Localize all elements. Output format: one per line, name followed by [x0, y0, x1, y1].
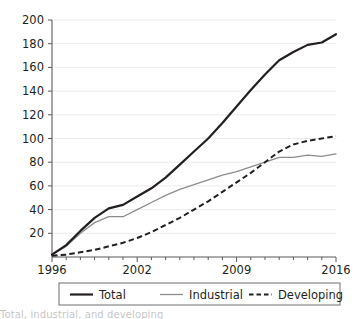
caption-strip: Total, industrial, and developing [0, 309, 358, 319]
x-axis-tick-labels: 1996200220092016 [37, 263, 350, 277]
y-tick-label: 60 [29, 179, 44, 193]
line-chart: 20406080100120140160180200 1996200220092… [0, 0, 358, 319]
y-tick-label: 100 [22, 132, 44, 146]
y-tick-label: 160 [22, 60, 44, 74]
y-tick-label: 180 [22, 37, 44, 51]
chart-legend: Total Industrial Developing [59, 283, 343, 305]
figure-container: 20406080100120140160180200 1996200220092… [0, 0, 358, 319]
legend-label-total: Total [98, 288, 126, 302]
figure-caption: Total, industrial, and developing [0, 309, 358, 319]
legend-label-industrial: Industrial [189, 288, 243, 302]
y-tick-label: 200 [22, 13, 44, 27]
legend-label-developing: Developing [278, 288, 343, 302]
y-tick-label: 120 [22, 108, 44, 122]
x-tick-label: 1996 [37, 263, 66, 277]
y-axis-ticks: 20406080100120140160180200 [22, 13, 52, 240]
y-tick-label: 40 [29, 203, 44, 217]
y-tick-label: 80 [29, 155, 44, 169]
y-tick-label: 140 [22, 84, 44, 98]
x-axis-ticks [52, 257, 336, 262]
x-tick-label: 2002 [123, 263, 152, 277]
y-tick-label: 20 [29, 226, 44, 240]
x-tick-label: 2009 [222, 263, 251, 277]
x-tick-label: 2016 [321, 263, 350, 277]
